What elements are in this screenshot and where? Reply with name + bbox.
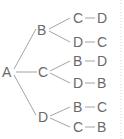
node-r3a: B xyxy=(73,53,82,69)
node-r1a: C xyxy=(73,10,83,26)
edge-c-d xyxy=(50,73,70,83)
node-r5b: C xyxy=(97,99,107,115)
edge-a-b xyxy=(14,29,36,69)
node-r6a: C xyxy=(73,119,83,135)
node-r1b: D xyxy=(97,10,107,26)
node-r6b: B xyxy=(97,119,106,135)
edge-b-c xyxy=(49,18,70,29)
node-l1-b: B xyxy=(37,22,46,38)
node-l1-c: C xyxy=(38,64,48,80)
edge-d-b xyxy=(50,107,70,116)
node-r4b: B xyxy=(97,75,106,91)
edge-d-c xyxy=(50,118,70,127)
node-root: A xyxy=(2,64,12,80)
edge-c-b xyxy=(50,61,70,71)
edge-a-d xyxy=(14,75,36,115)
node-l1-d: D xyxy=(38,109,48,125)
node-r2a: D xyxy=(73,34,83,50)
node-r3b: D xyxy=(97,53,107,69)
node-r2b: C xyxy=(97,34,107,50)
node-r5a: B xyxy=(73,99,82,115)
edge-b-d xyxy=(49,31,70,42)
tree-diagram: A B C D C D D C B D D B B C C B xyxy=(0,0,124,139)
node-r4a: D xyxy=(73,75,83,91)
